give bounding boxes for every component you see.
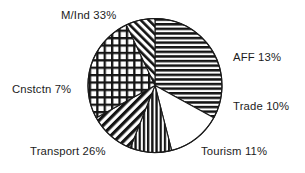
pie-label-transport: Transport 26% [30, 146, 106, 157]
pie-label-trade: Trade 10% [233, 101, 289, 112]
pie-chart-figure: M/Ind 33% AFF 13% Trade 10% Tourism 11% … [0, 0, 305, 173]
pie-label-aff: AFF 13% [233, 52, 281, 63]
pie-label-cnstctn: Cnstctn 7% [12, 84, 71, 95]
pie-slices-group [88, 19, 222, 153]
pie-label-mind: M/Ind 33% [61, 10, 116, 21]
pie-label-tourism: Tourism 11% [201, 146, 267, 157]
